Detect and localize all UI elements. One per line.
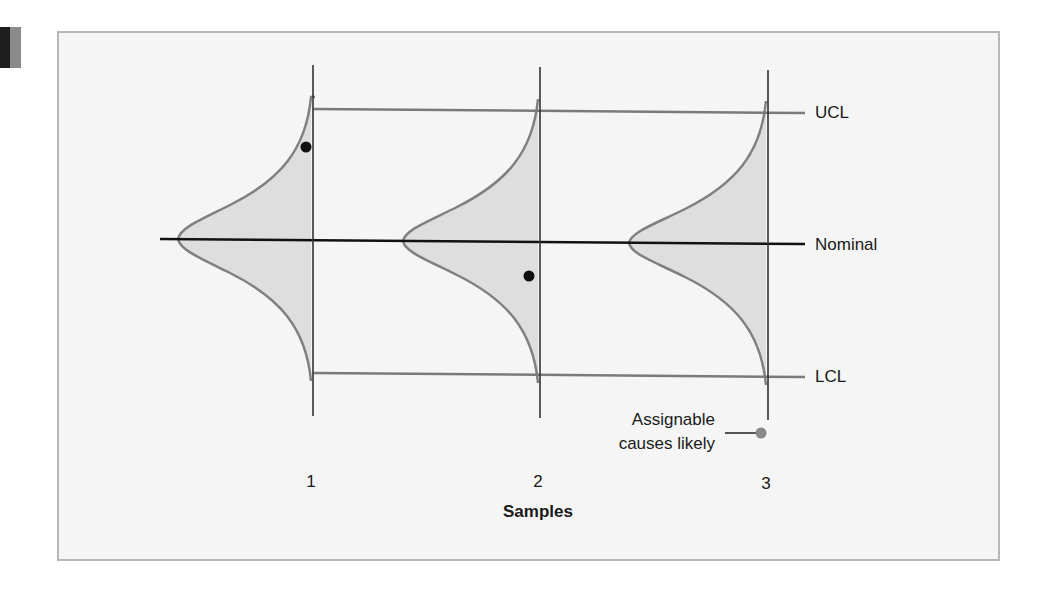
lcl-label: LCL xyxy=(815,368,846,385)
lcl-line xyxy=(313,373,805,377)
annotation-line-2: causes likely xyxy=(619,432,715,456)
sample-point-1 xyxy=(301,142,312,153)
x-axis-label: Samples xyxy=(503,503,573,520)
nominal-label: Nominal xyxy=(815,236,877,253)
assignable-causes-annotation: Assignable causes likely xyxy=(619,408,715,456)
ucl-line xyxy=(313,109,805,113)
sample-point-2 xyxy=(524,271,535,282)
sample-label-2: 2 xyxy=(533,473,542,490)
out-of-control-point-3 xyxy=(756,428,767,439)
sample-label-3: 3 xyxy=(761,475,770,492)
annotation-line-1: Assignable xyxy=(619,408,715,432)
ucl-label: UCL xyxy=(815,104,849,121)
sample-label-1: 1 xyxy=(306,473,315,490)
